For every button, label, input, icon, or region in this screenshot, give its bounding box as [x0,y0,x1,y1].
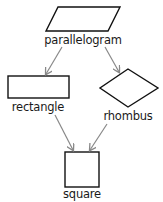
arrow-parallelogram-to-rhombus [105,47,119,72]
parallelogram-shape [46,7,120,31]
rhombus-shape [100,69,158,107]
quadrilateral-hierarchy-diagram: parallelogram rectangle rhombus square [0,0,163,202]
arrow-rectangle-to-square [55,115,73,150]
square-shape [65,152,99,187]
rectangle-shape [8,76,69,98]
parallelogram-label: parallelogram [44,35,122,47]
arrow-parallelogram-to-rectangle [46,47,62,74]
square-label: square [63,189,101,201]
rhombus-label: rhombus [103,111,152,123]
rectangle-label: rectangle [12,102,65,114]
arrow-rhombus-to-square [90,124,107,150]
